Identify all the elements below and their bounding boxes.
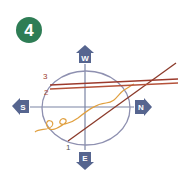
south-marker: S [12, 98, 29, 115]
compass-diagram: 4 3 2 1 W S N E [0, 0, 189, 179]
south-label: S [20, 103, 26, 112]
line-2-label: 2 [44, 88, 49, 97]
west-marker: W [76, 45, 94, 63]
line-3-label: 3 [43, 72, 48, 81]
east-label: E [82, 154, 88, 163]
east-marker: E [76, 152, 94, 170]
line-1-label: 1 [66, 143, 71, 152]
step-badge: 4 [16, 17, 42, 43]
west-label: W [81, 54, 89, 63]
step-number: 4 [24, 21, 34, 40]
north-marker: N [135, 98, 152, 116]
north-label: N [138, 103, 144, 112]
